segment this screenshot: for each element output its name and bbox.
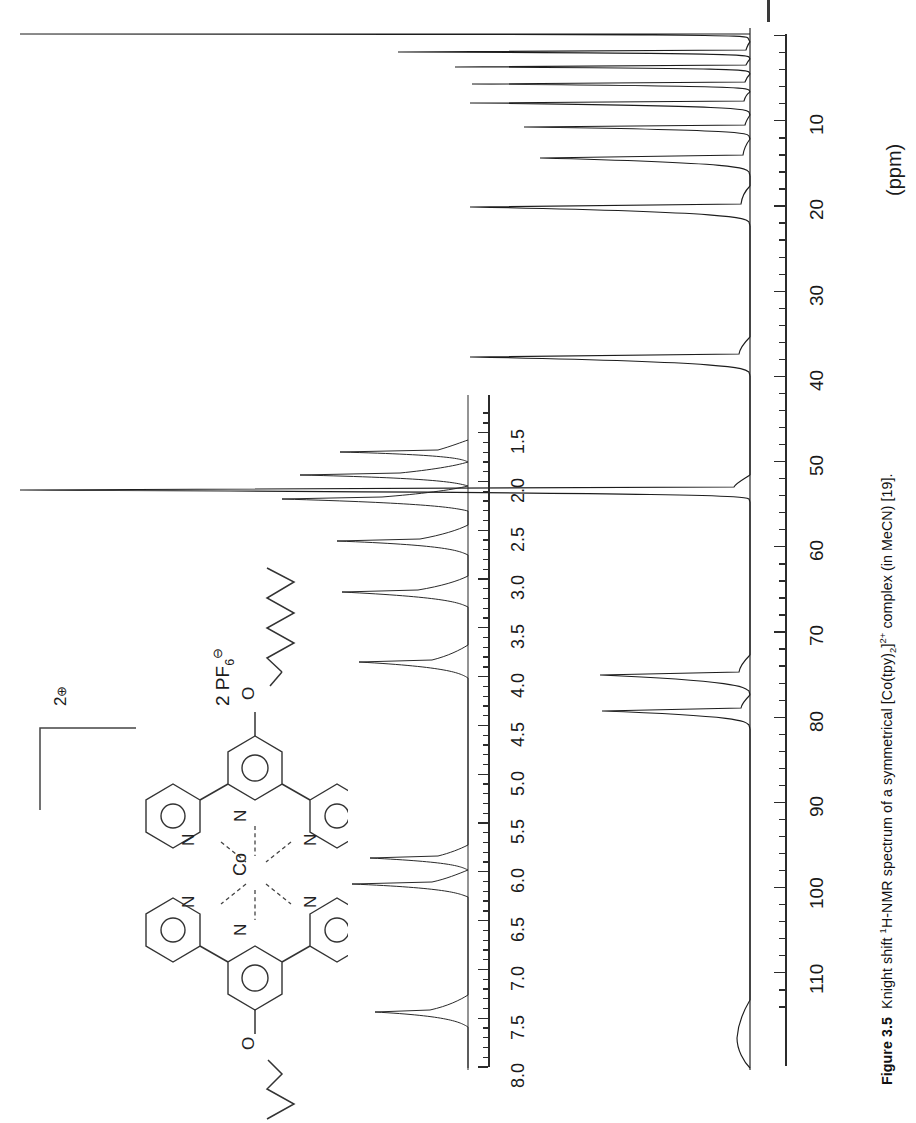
inset-axis-tick-label: 3.5 [508, 624, 529, 649]
ppm-axis-label: (ppm) [884, 144, 904, 196]
inset-axis-minor-tick [483, 930, 488, 931]
inset-axis-minor-tick [483, 1057, 488, 1058]
inset-axis-minor-tick [483, 891, 488, 892]
inset-axis-minor-tick [483, 998, 488, 999]
main-axis-tick-label: 60 [806, 540, 828, 561]
inset-axis-major-tick [478, 530, 488, 531]
inset-axis-minor-tick [483, 471, 488, 472]
inset-axis-minor-tick [483, 647, 488, 648]
inset-axis-minor-tick [483, 705, 488, 706]
inset-axis-tick-label: 5.5 [508, 819, 529, 844]
inset-axis-minor-tick [483, 949, 488, 950]
inset-axis-tick-label: 2.0 [508, 478, 529, 503]
chemical-structure-diagram: O N N N Co N [18, 560, 348, 1120]
inset-axis-tick-label: 6.5 [508, 917, 529, 942]
inset-ppm-axis [488, 395, 490, 1067]
inset-axis-major-tick [478, 969, 488, 970]
figure-page: O N N N Co N [0, 0, 916, 1123]
main-axis-tick-label: 10 [806, 114, 828, 135]
inset-axis-minor-tick [483, 617, 488, 618]
inset-axis-minor-tick [483, 539, 488, 540]
inset-axis-major-tick [478, 481, 488, 482]
inset-axis-major-tick [478, 432, 488, 433]
inset-axis-major-tick [478, 578, 488, 579]
main-axis-tick-label: 30 [806, 284, 828, 305]
inset-axis-tick-label: 3.0 [508, 575, 529, 600]
caption-mid-2: ] [879, 644, 895, 648]
inset-axis-minor-tick [483, 637, 488, 638]
inset-axis-minor-tick [483, 852, 488, 853]
inset-axis-major-tick [478, 676, 488, 677]
inset-axis-minor-tick [483, 832, 488, 833]
nitrogen-donor-top-right: N [301, 834, 320, 846]
main-axis-tick-label: 70 [806, 625, 828, 646]
inset-axis-minor-tick [483, 1037, 488, 1038]
inset-axis-minor-tick [483, 549, 488, 550]
inset-axis-minor-tick [483, 959, 488, 960]
inset-axis-minor-tick [483, 696, 488, 697]
inset-axis-minor-tick [483, 491, 488, 492]
inset-axis-minor-tick [483, 1027, 488, 1028]
inset-axis-minor-tick [483, 744, 488, 745]
counterion-subscript: 6 [223, 659, 237, 666]
caption-superscript-2: 2+ [877, 633, 888, 644]
figure-caption: Figure 3.5 Knight shift 1H-NMR spectrum … [878, 473, 897, 1085]
inset-axis-minor-tick [483, 569, 488, 570]
inset-axis-minor-tick [483, 842, 488, 843]
caption-mid: H-NMR spectrum of a symmetrical [Co(tpy) [879, 653, 895, 928]
main-axis-tick-label: 110 [806, 964, 828, 994]
inset-axis-minor-tick [483, 559, 488, 560]
inset-axis-major-tick [478, 920, 488, 921]
inset-axis-major-tick [478, 774, 488, 775]
inset-axis-minor-tick [483, 510, 488, 511]
main-axis-tick-label: 100 [806, 877, 828, 909]
nitrogen-donor-bottom-left: N [179, 896, 198, 908]
charge-number: 2 [51, 697, 70, 706]
inset-axis-minor-tick [483, 881, 488, 882]
charge-sign: ⊕ [54, 686, 69, 697]
inset-axis-tick-label: 2.5 [508, 527, 529, 552]
inset-axis-minor-tick [483, 754, 488, 755]
inset-axis-minor-tick [483, 715, 488, 716]
complex-charge-label: 2⊕ [52, 686, 69, 706]
caption-lead: Knight shift [879, 933, 895, 1008]
main-axis-tick-label: 80 [806, 710, 828, 731]
inset-axis-tick-label: 4.5 [508, 722, 529, 747]
main-axis-tick-label: 40 [806, 370, 828, 391]
main-axis-tick-label: 90 [806, 796, 828, 817]
inset-axis-minor-tick [483, 608, 488, 609]
counterion-count: 2 [212, 695, 233, 706]
inset-axis-minor-tick [483, 412, 488, 413]
nitrogen-donor-top-center: N [231, 810, 250, 822]
inset-axis-minor-tick [483, 861, 488, 862]
main-axis-tick-label: 50 [806, 455, 828, 476]
inset-axis-tick-label: 7.5 [508, 1015, 529, 1040]
inset-axis-minor-tick [483, 500, 488, 501]
inset-axis-minor-tick [483, 988, 488, 989]
inset-axis-minor-tick [483, 735, 488, 736]
main-axis-tick-label: 20 [806, 199, 828, 220]
inset-axis-minor-tick [483, 900, 488, 901]
inset-axis-minor-tick [483, 461, 488, 462]
inset-axis-minor-tick [483, 442, 488, 443]
structure-svg: O N N N Co N [18, 560, 348, 1120]
inset-axis-tick-label: 8.0 [508, 1063, 529, 1088]
inset-axis-major-tick [478, 627, 488, 628]
inset-axis-minor-tick [483, 520, 488, 521]
inset-axis-major-tick [478, 871, 488, 872]
inset-axis-tick-label: 6.0 [508, 868, 529, 893]
counterion-formula: PF [212, 666, 233, 690]
dative-bond [221, 884, 246, 904]
figure-number: Figure 3.5 [879, 1017, 895, 1085]
inset-axis-tick-label: 4.0 [508, 673, 529, 698]
inset-axis-minor-tick [483, 452, 488, 453]
oxygen-atom-bottom: O [239, 1037, 258, 1050]
inset-axis-minor-tick [483, 813, 488, 814]
inset-axis-major-tick [478, 1018, 488, 1019]
inset-axis-minor-tick [483, 1008, 488, 1009]
inset-axis-minor-tick [483, 422, 488, 423]
inset-axis-minor-tick [483, 793, 488, 794]
inset-axis-major-tick [478, 725, 488, 726]
caption-tail: complex (in MeCN) [19]. [879, 473, 895, 632]
inset-axis-major-tick [478, 1066, 488, 1067]
